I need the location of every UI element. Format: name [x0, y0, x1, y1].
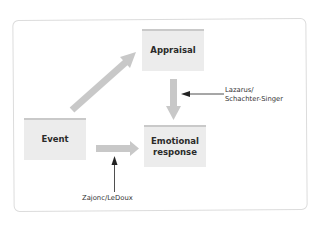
annotation-zajonc-label: Zajonc/LeDoux — [82, 194, 133, 202]
pointer-arrow-lazarus — [181, 91, 224, 97]
node-emotional-response-line2: response — [153, 147, 197, 158]
arrow-appraisal-to-emotional-response — [166, 79, 181, 120]
diagram-canvas: Appraisal Event Emotional response Lazar… — [0, 0, 325, 231]
node-event-label: Event — [41, 134, 68, 145]
node-emotional-response: Emotional response — [144, 125, 206, 167]
node-emotional-response-line1: Emotional — [151, 136, 199, 147]
arrow-event-to-emotional-response — [96, 141, 139, 156]
annotation-lazarus-schachter-singer: Lazarus/ Schachter-Singer — [225, 86, 283, 104]
annotation-zajonc-ledoux: Zajonc/LeDoux — [82, 194, 133, 203]
node-event: Event — [24, 118, 86, 160]
annotation-lazarus-line2: Schachter-Singer — [225, 95, 283, 104]
annotation-lazarus-line1: Lazarus/ — [225, 86, 283, 95]
node-appraisal: Appraisal — [142, 29, 204, 71]
pointer-arrow-zajonc — [112, 156, 118, 192]
arrow-event-to-appraisal — [72, 52, 136, 110]
node-appraisal-label: Appraisal — [150, 45, 195, 56]
